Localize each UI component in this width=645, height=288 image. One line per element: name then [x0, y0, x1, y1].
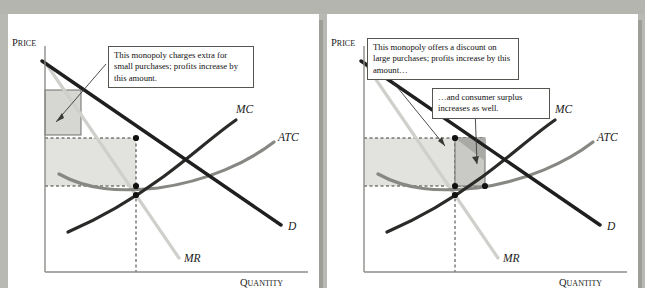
quantity-axis-label: QUANTITY: [559, 277, 602, 288]
price-axis-label: PRICE: [331, 37, 355, 48]
right-panel-shadow: [638, 20, 642, 288]
curve-label-mr: MR: [183, 252, 201, 264]
quantity-axis-label: QUANTITY: [240, 277, 283, 288]
curve-label-mr: MR: [502, 252, 520, 264]
curve-label-mc: MC: [235, 103, 254, 115]
extra-charge-rectangle: [45, 90, 81, 135]
figure-stage: MC ATC D MR PRICE QUANTITY This monopoly…: [0, 0, 645, 288]
curve-label-d: D: [287, 220, 297, 232]
price-axis-label: PRICE: [12, 37, 36, 48]
curve-label-d: D: [606, 220, 616, 232]
panel-right: MC ATC D MR PRICE QUANTITY This monopoly…: [327, 14, 638, 288]
profit-rectangle: [45, 138, 136, 186]
quantity-axis-label-rest: UANTITY: [248, 279, 284, 288]
monopoly-price-point: [452, 135, 458, 141]
curve-label-mc: MC: [554, 103, 573, 115]
panel-left: MC ATC D MR PRICE QUANTITY This monopoly…: [8, 14, 319, 288]
page-top-band: [0, 0, 645, 14]
monopoly-price-point: [133, 135, 139, 141]
right-callout-1: This monopoly offers a discount on large…: [367, 38, 519, 80]
average-cost-point: [452, 183, 458, 189]
curve-label-atc: ATC: [277, 131, 299, 143]
right-callout-2: …and consumer surplus increases as well.: [432, 88, 550, 119]
left-callout-1: This monopoly charges extra for small pu…: [108, 46, 254, 88]
curve-label-atc: ATC: [596, 131, 618, 143]
average-cost-point: [133, 183, 139, 189]
price-axis-label-rest: RICE: [18, 39, 36, 48]
quantity-axis-label-rest: UANTITY: [567, 279, 603, 288]
left-panel-shadow: [319, 20, 323, 288]
mr-equals-mc-point: [452, 192, 458, 198]
mr-equals-mc-point: [133, 192, 139, 198]
price-axis-label-rest: RICE: [337, 39, 355, 48]
discount-quantity-point: [482, 183, 488, 189]
